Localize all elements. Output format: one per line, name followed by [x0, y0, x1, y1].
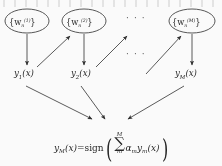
output-arg-1: (x) [22, 68, 34, 78]
weight-node-label-M: {wn(M)} [172, 17, 200, 27]
brace-close-wM: } [195, 17, 200, 27]
arrow-y2-to-next [96, 36, 127, 67]
summation-operator: M∑m [114, 132, 125, 154]
output-arg-2: (x) [79, 68, 91, 78]
formula-lhs-arg: (x) [65, 143, 77, 153]
subscript-w1: n [21, 23, 24, 28]
formula-term-arg: (x) [147, 143, 159, 153]
brace-open-w2: {w [66, 17, 78, 27]
arrow-y2-to-output [81, 86, 105, 119]
superscript-wM: (M) [187, 17, 195, 22]
classifier-output-M: yM(x) [175, 68, 197, 78]
converge-arrows [26, 86, 184, 119]
chain-arrows [37, 36, 181, 74]
brace-open-wM: {w [172, 17, 184, 27]
down-arrows [27, 34, 192, 65]
subscript-wM: n [184, 23, 187, 28]
ensemble-combination-formula: yM(x)=sign(M∑mαmym(x)) [54, 132, 170, 154]
subscript-w2: n [78, 23, 81, 28]
brace-open-w1: {w [9, 17, 21, 27]
node-row-ellipsis: · · · [126, 13, 146, 23]
middle-row-ellipsis: · · · [126, 49, 146, 59]
brace-close-w2: } [87, 17, 92, 27]
arrow-yM-to-output [128, 86, 184, 119]
weight-node-label-2: {wn(2)} [66, 17, 93, 27]
arrow-y1-to-output [26, 86, 92, 119]
brace-close-w1: } [30, 17, 35, 27]
boosting-ensemble-diagram: {wn(1)} {wn(2)} {wn(M)} · · · · · · y1(x… [0, 0, 222, 166]
arrow-y1-to-w2 [37, 36, 70, 67]
weight-node-label-1: {wn(1)} [9, 17, 36, 27]
output-arg-M: (x) [185, 68, 197, 78]
classifier-output-1: y1(x) [14, 68, 34, 78]
formula-equals: = [77, 143, 85, 153]
formula-sign-function: sign [85, 143, 104, 153]
classifier-output-2: y2(x) [71, 68, 91, 78]
